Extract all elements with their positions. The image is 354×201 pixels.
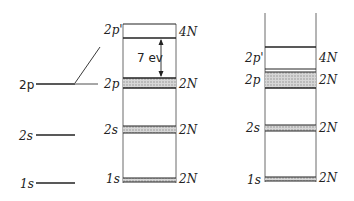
middle-band-panel: 2p' 4N 7 ev 2p 2N 2s 2N 1s 2N <box>103 23 198 186</box>
right-label-1s: 1s <box>247 173 261 187</box>
right-2p-band <box>265 72 316 88</box>
right-capacity-2s: 2N <box>318 121 338 135</box>
atomic-levels: 2p 2s 1s <box>18 47 100 191</box>
middle-label-1s: 1s <box>106 172 120 186</box>
right-capacity-1s: 2N <box>318 171 338 185</box>
right-1s-band <box>265 177 316 181</box>
splitting-line-upper <box>75 47 100 83</box>
right-capacity-2pprime: 4N <box>318 51 338 65</box>
middle-label-2pprime: 2p' <box>103 23 123 37</box>
right-capacity-2p: 2N <box>318 73 338 87</box>
middle-capacity-1s: 2N <box>178 172 198 186</box>
gap-arrow-head-up <box>159 39 164 45</box>
middle-label-2p: 2p <box>103 77 120 91</box>
middle-1s-band <box>123 178 176 182</box>
right-label-2p: 2p <box>244 73 261 87</box>
right-band-panel: 2p' 4N 2p 2N 2s 2N 1s 2N <box>244 13 338 187</box>
middle-2s-band <box>123 126 176 133</box>
right-2s-band <box>265 125 316 131</box>
middle-label-2s: 2s <box>103 123 118 137</box>
middle-capacity-2s: 2N <box>178 123 198 137</box>
atomic-label-2s: 2s <box>18 129 33 143</box>
right-label-2pprime: 2p' <box>244 51 264 65</box>
right-label-2s: 2s <box>245 121 260 135</box>
middle-2p-band <box>123 78 176 88</box>
atomic-label-1s: 1s <box>20 177 34 191</box>
middle-capacity-2pprime: 4N <box>178 25 198 39</box>
gap-label: 7 ev <box>137 51 163 65</box>
energy-level-diagram: 2p 2s 1s 2p' 4N 7 ev 2p 2N 2s 2N <box>0 0 354 201</box>
gap-arrow-head-down <box>159 71 164 77</box>
middle-capacity-2p: 2N <box>178 77 198 91</box>
atomic-label-2p: 2p <box>19 78 34 92</box>
